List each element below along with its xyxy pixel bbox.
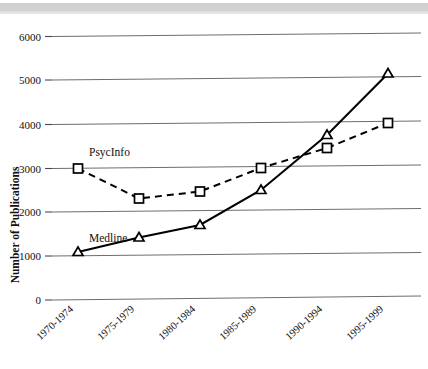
data-point-psycinfo-1970-1974 [74, 164, 83, 173]
series-medline [73, 69, 393, 256]
series-psycinfo [74, 119, 393, 204]
x-tick-label-1970-1974: 1970-1974 [34, 303, 76, 342]
x-axis-tick-labels: 1970-1974 1975-1979 1980-1984 1985-1989 … [34, 303, 385, 342]
y-tick-label-1000: 1000 [19, 250, 42, 262]
data-point-medline-1995-1999 [383, 69, 393, 78]
x-tick-label-1995-1999: 1995-1999 [344, 303, 385, 342]
y-axis-tickmarks [45, 37, 52, 301]
y-tick-label-0: 0 [36, 294, 42, 306]
x-tick-label-1985-1989: 1985-1989 [217, 303, 258, 342]
y-tick-label-5000: 5000 [19, 74, 42, 86]
gridlines [52, 33, 421, 300]
x-tick-label-1975-1979: 1975-1979 [95, 303, 136, 342]
data-point-psycinfo-1975-1979 [135, 194, 144, 203]
series-psycinfo-line [78, 123, 388, 199]
gridline-0 [52, 296, 421, 300]
gridline-4000 [52, 121, 421, 125]
x-tick-label-1990-1994: 1990-1994 [283, 303, 325, 342]
y-axis-title: Number of Publications [9, 166, 21, 283]
x-tick-label-1980-1984: 1980-1984 [156, 303, 198, 342]
data-point-psycinfo-1990-1994 [323, 144, 332, 153]
data-point-psycinfo-1985-1989 [257, 164, 266, 173]
data-point-psycinfo-1980-1984 [196, 187, 205, 196]
gridline-3000 [52, 165, 421, 169]
data-point-psycinfo-1995-1999 [384, 119, 393, 128]
series-label-psycinfo: PsycInfo [89, 146, 130, 159]
gridline-6000 [52, 33, 421, 37]
y-tick-label-4000: 4000 [19, 119, 42, 131]
gridline-1000 [52, 253, 421, 257]
y-tick-label-2000: 2000 [19, 206, 42, 218]
y-axis-tick-labels: 6000 5000 4000 3000 2000 1000 0 [19, 31, 42, 307]
line-chart: 6000 5000 4000 3000 2000 1000 0 Number o… [0, 0, 428, 369]
data-point-medline-1980-1984 [195, 220, 205, 229]
y-tick-label-3000: 3000 [19, 163, 42, 175]
gridline-5000 [52, 77, 421, 81]
y-tick-label-6000: 6000 [19, 31, 42, 43]
series-label-medline: Medline [89, 232, 127, 244]
gridline-2000 [52, 209, 421, 213]
chart-figure: 6000 5000 4000 3000 2000 1000 0 Number o… [0, 0, 428, 369]
series-medline-line [78, 74, 388, 253]
